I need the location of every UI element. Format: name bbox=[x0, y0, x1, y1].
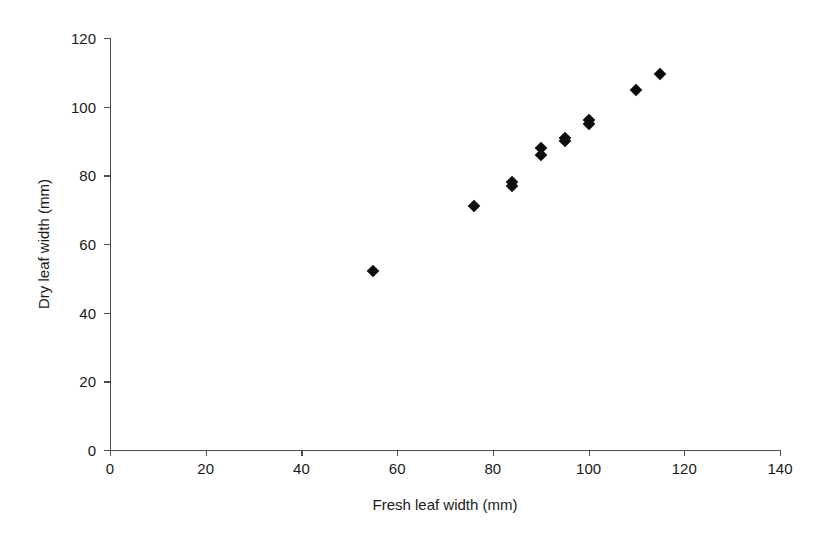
x-tick-mark bbox=[397, 450, 398, 456]
y-axis-title: Dry leaf width (mm) bbox=[35, 179, 52, 309]
y-tick-label: 80 bbox=[79, 167, 96, 184]
x-tick-mark bbox=[589, 450, 590, 456]
x-tick-label: 120 bbox=[672, 460, 697, 477]
x-axis-line bbox=[110, 450, 781, 451]
x-tick-mark bbox=[493, 450, 494, 456]
y-tick-label: 0 bbox=[88, 442, 96, 459]
x-tick-mark bbox=[684, 450, 685, 456]
y-tick-label: 20 bbox=[79, 373, 96, 390]
y-tick-label: 60 bbox=[79, 236, 96, 253]
y-tick-label: 40 bbox=[79, 304, 96, 321]
scatter-chart-figure: 020406080100120140 020406080100120 Fresh… bbox=[0, 0, 823, 543]
x-tick-mark bbox=[206, 450, 207, 456]
x-tick-label: 60 bbox=[389, 460, 406, 477]
x-tick-mark bbox=[780, 450, 781, 456]
x-tick-label: 100 bbox=[576, 460, 601, 477]
y-tick-mark bbox=[104, 450, 110, 451]
x-tick-label: 0 bbox=[106, 460, 114, 477]
x-tick-label: 40 bbox=[293, 460, 310, 477]
plot-area bbox=[110, 38, 780, 450]
x-tick-mark bbox=[301, 450, 302, 456]
x-tick-label: 140 bbox=[767, 460, 792, 477]
x-tick-label: 20 bbox=[197, 460, 214, 477]
y-tick-label: 120 bbox=[71, 30, 96, 47]
x-tick-label: 80 bbox=[485, 460, 502, 477]
x-tick-mark bbox=[110, 450, 111, 456]
x-axis-title: Fresh leaf width (mm) bbox=[372, 496, 517, 513]
y-tick-label: 100 bbox=[71, 98, 96, 115]
